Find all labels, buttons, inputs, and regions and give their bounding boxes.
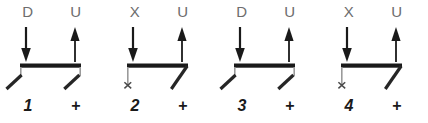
right-support-angled-leg <box>385 66 401 89</box>
panel-row: D U 1 <box>0 0 428 123</box>
mechanism-diagram-figure: D U 1 <box>0 0 428 123</box>
panel-2-number: 2 <box>123 95 147 117</box>
down-arrow-icon <box>342 27 352 62</box>
panel-1-number: 1 <box>16 95 40 117</box>
up-arrow-icon <box>70 27 79 62</box>
panel-1: D U 1 <box>0 0 107 123</box>
rigid-beam <box>20 64 81 68</box>
left-support-angled-leg <box>7 67 22 89</box>
panel-3: D U 3 <box>214 0 321 123</box>
down-arrow-icon <box>128 27 138 62</box>
rigid-beam <box>127 64 188 68</box>
rigid-beam <box>341 64 402 68</box>
rigid-beam <box>234 64 295 68</box>
down-arrow-icon <box>235 27 245 62</box>
panel-4: X U <box>321 0 428 123</box>
panel-2-sign: + <box>171 95 195 117</box>
right-support-angled-leg <box>171 66 187 89</box>
left-support-vertical-stub-cross <box>338 67 345 88</box>
left-support-vertical-stub-cross <box>124 67 131 88</box>
panel-3-sign: + <box>278 95 302 117</box>
up-arrow-icon <box>177 27 186 62</box>
left-support-angled-leg <box>221 67 236 89</box>
up-arrow-icon <box>391 27 400 62</box>
up-arrow-icon <box>284 27 293 62</box>
panel-1-sign: + <box>64 95 88 117</box>
panel-2: X U <box>107 0 214 123</box>
down-arrow-icon <box>21 27 31 62</box>
right-support-angled-leg <box>64 67 80 89</box>
panel-4-number: 4 <box>337 95 361 117</box>
panel-3-number: 3 <box>230 95 254 117</box>
right-support-angled-leg <box>278 67 294 89</box>
panel-4-sign: + <box>385 95 409 117</box>
